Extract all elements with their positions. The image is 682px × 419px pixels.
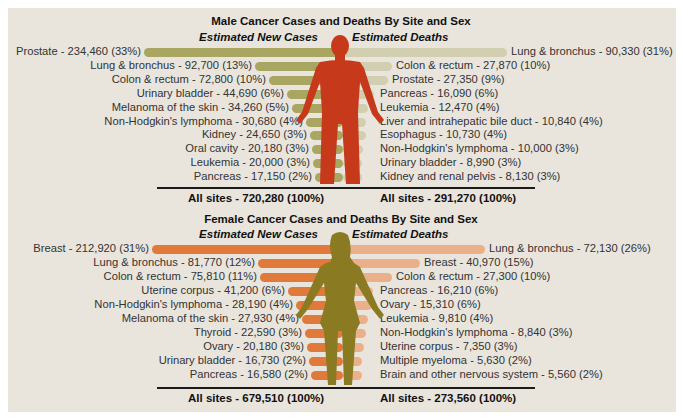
male-deaths-label: Pancreas - 16,090 (6%) bbox=[380, 87, 498, 100]
male-cases-label: Lung & bronchus - 92,700 (13%) bbox=[90, 59, 252, 72]
male-cases-label: Urinary bladder - 44,690 (6%) bbox=[137, 87, 284, 100]
male-deaths-label: Liver and intrahepatic bile duct - 10,84… bbox=[380, 115, 603, 128]
female-deaths-label: Breast - 40,970 (15%) bbox=[424, 256, 533, 269]
male-deaths-label: Kidney and renal pelvis - 8,130 (3%) bbox=[380, 170, 560, 183]
male-deaths-total: All sites - 291,270 (100%) bbox=[380, 192, 516, 204]
male-chart-title: Male Cancer Cases and Deaths By Site and… bbox=[0, 15, 682, 27]
female-cases-label: Non-Hodgkin's lymphoma - 28,190 (4%) bbox=[94, 298, 293, 311]
female-divider bbox=[157, 387, 535, 389]
male-deaths-label: Prostate - 27,350 (9%) bbox=[392, 73, 505, 86]
female-cases-label: Urinary bladder - 16,730 (2%) bbox=[159, 354, 306, 367]
female-cases-label: Melanoma of the skin - 27,930 (4%) bbox=[122, 312, 299, 325]
female-cases-label: Lung & bronchus - 81,770 (12%) bbox=[93, 256, 255, 269]
female-cases-total: All sites - 679,510 (100%) bbox=[188, 392, 324, 404]
female-deaths-label: Non-Hodgkin's lymphoma - 8,840 (3%) bbox=[380, 326, 572, 339]
male-cases-label: Prostate - 234,460 (33%) bbox=[16, 45, 141, 58]
male-cases-label: Non-Hodgkin's lymphoma - 30,680 (4%) bbox=[104, 115, 303, 128]
male-deaths-label: Esophagus - 10,730 (4%) bbox=[380, 128, 507, 141]
male-cases-label: Colon & rectum - 72,800 (10%) bbox=[112, 73, 266, 86]
female-deaths-label: Uterine corpus - 7,350 (3%) bbox=[380, 340, 517, 353]
female-figure-icon bbox=[290, 231, 390, 387]
male-deaths-label: Colon & rectum - 27,870 (10%) bbox=[396, 59, 550, 72]
male-deaths-label: Non-Hodgkin's lymphoma - 10,000 (3%) bbox=[380, 142, 579, 155]
female-deaths-label: Brain and other nervous system - 5,560 (… bbox=[380, 368, 603, 381]
male-divider bbox=[157, 187, 535, 189]
male-cases-total: All sites - 720,280 (100%) bbox=[188, 192, 324, 204]
female-deaths-label: Pancreas - 16,210 (6%) bbox=[380, 284, 498, 297]
male-deaths-label: Urinary bladder - 8,990 (3%) bbox=[380, 156, 521, 169]
male-deaths-label: Leukemia - 12,470 (4%) bbox=[380, 101, 499, 114]
male-deaths-label: Lung & bronchus - 90,330 (31%) bbox=[511, 45, 673, 58]
female-chart-title: Female Cancer Cases and Deaths By Site a… bbox=[0, 213, 682, 225]
female-deaths-label: Colon & rectum - 27,300 (10%) bbox=[396, 270, 550, 283]
female-cases-label: Ovary - 20,180 (3%) bbox=[203, 340, 304, 353]
female-cases-label: Uterine corpus - 41,200 (6%) bbox=[141, 284, 285, 297]
female-deaths-total: All sites - 273,560 (100%) bbox=[380, 392, 516, 404]
female-deaths-label: Leukemia - 9,810 (4%) bbox=[380, 312, 493, 325]
female-deaths-label: Lung & bronchus - 72,130 (26%) bbox=[489, 242, 651, 255]
female-deaths-label: Multiple myeloma - 5,630 (2%) bbox=[380, 354, 532, 367]
female-cases-label: Breast - 212,920 (31%) bbox=[33, 242, 149, 255]
male-figure-icon bbox=[290, 34, 390, 186]
female-cases-label: Thyroid - 22,590 (3%) bbox=[194, 326, 302, 339]
female-deaths-label: Ovary - 15,310 (6%) bbox=[380, 298, 481, 311]
male-cases-label: Melanoma of the skin - 34,260 (5%) bbox=[112, 101, 289, 114]
female-cases-label: Colon & rectum - 75,810 (11%) bbox=[104, 270, 257, 283]
